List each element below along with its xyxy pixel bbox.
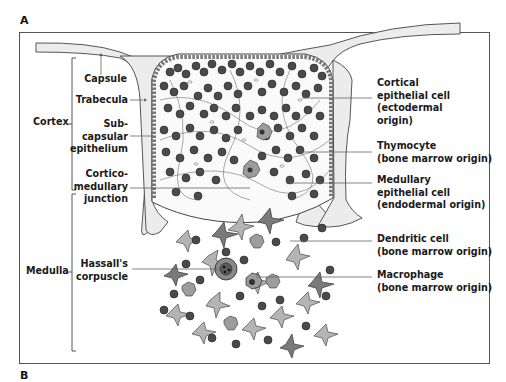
hassalls-corpuscle-shape xyxy=(215,258,237,280)
label-subcapsular-epithelium: Sub- capsular epithelium xyxy=(62,118,128,156)
label-capsule: Capsule xyxy=(70,73,127,86)
label-corticomedullary-junction: Cortico- medullary junction xyxy=(62,168,128,206)
label-medullary-epithelial-cell: Medullary epithelial cell (endodermal or… xyxy=(377,174,485,212)
label-cortical-epithelial-cell: Cortical epithelial cell (ectodermal ori… xyxy=(377,77,450,127)
label-macrophage: Macrophage (bone marrow origin) xyxy=(377,269,492,294)
medulla-cells xyxy=(160,208,338,358)
label-trabecula: Trabecula xyxy=(62,94,128,107)
label-thymocyte: Thymocyte (bone marrow origin) xyxy=(377,140,492,165)
label-dendritic-cell: Dendritic cell (bone marrow origin) xyxy=(377,233,492,258)
label-hassalls-corpuscle: Hassall's corpuscle xyxy=(62,258,128,283)
